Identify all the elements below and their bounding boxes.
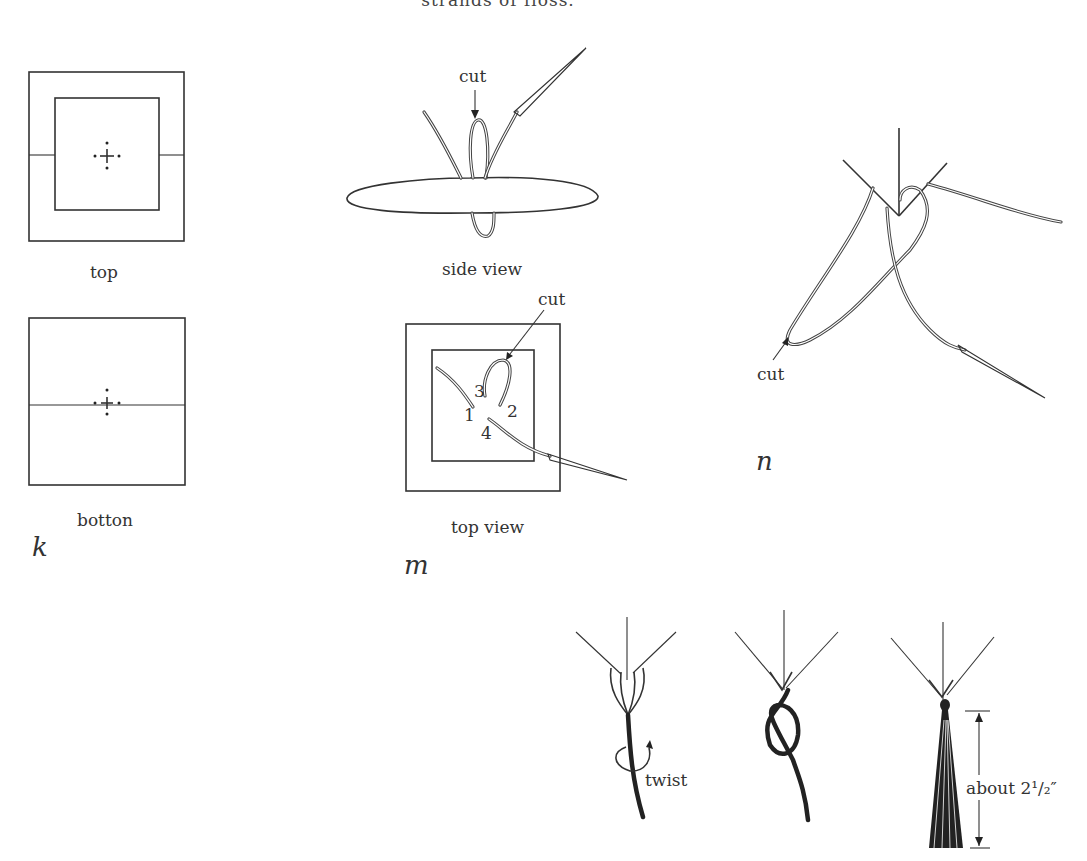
tassel-step-knot-drawing bbox=[735, 610, 838, 820]
fig-m-side-view-caption: side view bbox=[442, 259, 522, 279]
fig-k-letter: k bbox=[32, 532, 48, 562]
tassel-step-finished-drawing bbox=[891, 622, 994, 848]
fig-k-bottom-drawing bbox=[29, 318, 185, 485]
fig-n-drawing bbox=[773, 128, 1061, 398]
illustration-canvas bbox=[0, 0, 1087, 861]
fig-k-top-caption: top bbox=[90, 262, 118, 282]
fig-m-side-cut-label: cut bbox=[459, 66, 486, 86]
step-number-1: 1 bbox=[464, 405, 475, 425]
fig-k-top-drawing bbox=[29, 72, 184, 241]
step-number-4: 4 bbox=[481, 423, 492, 443]
twist-label: twist bbox=[645, 770, 687, 790]
fig-n-cut-label: cut bbox=[757, 364, 784, 384]
fig-k-bottom-caption: botton bbox=[77, 510, 133, 530]
step-number-2: 2 bbox=[507, 401, 518, 421]
measurement-label: about 2¹/₂″ bbox=[964, 778, 1059, 798]
step-number-3: 3 bbox=[474, 381, 485, 401]
fig-m-letter: m bbox=[404, 550, 429, 580]
fig-m-top-view-caption: top view bbox=[451, 517, 524, 537]
fig-m-top-cut-label: cut bbox=[538, 289, 565, 309]
fig-n-letter: n bbox=[756, 446, 773, 476]
